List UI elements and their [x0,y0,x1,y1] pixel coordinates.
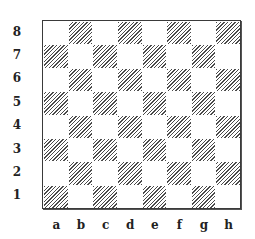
square-a5 [44,92,68,114]
rank-label-2: 2 [10,165,24,179]
square-h5 [215,91,240,114]
square-e3 [143,139,167,161]
square-d8 [118,22,142,44]
square-c2 [92,161,117,184]
square-c3 [93,139,117,161]
square-e8 [142,21,167,44]
square-c8 [92,21,117,44]
square-b8 [69,22,93,44]
file-label-f: f [172,218,186,232]
square-d3 [117,138,142,161]
square-a4 [43,115,68,138]
square-c6 [92,68,117,91]
square-b7 [68,44,93,67]
square-c7 [93,45,117,67]
square-a3 [44,139,68,161]
square-h3 [215,138,240,161]
square-f5 [166,91,191,114]
square-a8 [43,21,68,44]
file-label-g: g [197,218,211,232]
square-a1 [44,186,68,208]
square-g7 [192,45,216,67]
square-g2 [191,161,216,184]
square-c4 [92,115,117,138]
square-h1 [215,185,240,208]
square-f7 [166,44,191,67]
square-a6 [43,68,68,91]
square-f3 [166,138,191,161]
square-g1 [192,186,216,208]
square-d2 [118,162,142,184]
square-h2 [216,162,240,184]
square-g3 [192,139,216,161]
square-e4 [142,115,167,138]
square-e5 [143,92,167,114]
square-b5 [68,91,93,114]
rank-label-8: 8 [10,25,24,39]
square-d4 [118,116,142,138]
square-f4 [167,116,191,138]
square-f6 [167,69,191,91]
square-e1 [143,186,167,208]
square-e6 [142,68,167,91]
square-e2 [142,161,167,184]
square-b4 [69,116,93,138]
rank-label-5: 5 [10,95,24,109]
square-g5 [192,92,216,114]
square-f2 [167,162,191,184]
square-c1 [93,186,117,208]
rank-label-4: 4 [10,118,24,132]
square-d7 [117,44,142,67]
chessboard [42,20,241,209]
file-label-h: h [222,218,236,232]
square-e7 [143,45,167,67]
rank-label-7: 7 [10,48,24,62]
file-label-a: a [49,218,63,232]
square-h8 [216,22,240,44]
square-a2 [43,161,68,184]
square-g8 [191,21,216,44]
square-h6 [216,69,240,91]
square-d1 [117,185,142,208]
rank-label-6: 6 [10,71,24,85]
file-label-e: e [148,218,162,232]
rank-label-1: 1 [10,188,24,202]
square-f8 [167,22,191,44]
file-label-b: b [74,218,88,232]
file-label-d: d [123,218,137,232]
square-b6 [69,69,93,91]
rank-label-3: 3 [10,142,24,156]
square-c5 [93,92,117,114]
square-h4 [216,116,240,138]
file-label-c: c [99,218,113,232]
square-b3 [68,138,93,161]
square-a7 [44,45,68,67]
square-h7 [215,44,240,67]
square-g6 [191,68,216,91]
square-b2 [69,162,93,184]
square-f1 [166,185,191,208]
square-d5 [117,91,142,114]
square-d6 [118,69,142,91]
square-g4 [191,115,216,138]
square-b1 [68,185,93,208]
